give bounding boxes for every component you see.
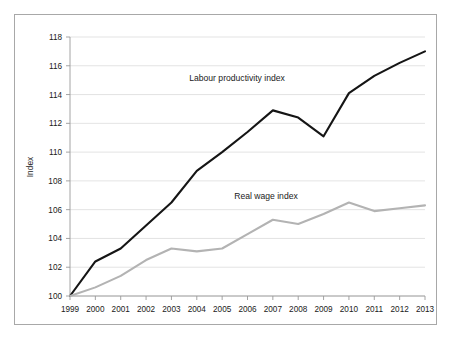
x-tick-label: 1999 [61, 305, 80, 314]
chart-frame: 100102104106108110112114116118 199920002… [14, 14, 437, 325]
y-tick-labels-group: 100102104106108110112114116118 [48, 33, 62, 301]
series-annotation-labour-productivity-index: Labour productivity index [189, 73, 285, 83]
series-line-labour-productivity-index [70, 51, 425, 296]
x-tick-label: 2001 [112, 305, 131, 314]
x-tick-marks-group [70, 296, 425, 300]
series-line-real-wage-index [70, 202, 425, 296]
y-tick-label: 116 [49, 62, 62, 71]
x-tick-label: 2010 [340, 305, 359, 314]
x-tick-label: 2000 [86, 305, 105, 314]
x-tick-label: 2008 [289, 305, 308, 314]
x-tick-label: 2005 [213, 305, 232, 314]
x-tick-label: 2009 [314, 305, 333, 314]
y-tick-label: 118 [49, 33, 62, 42]
y-tick-label: 110 [49, 148, 62, 157]
y-tick-label: 100 [48, 292, 62, 301]
x-tick-label: 2012 [391, 305, 410, 314]
x-tick-label: 2007 [264, 305, 283, 314]
chart-figure: 100102104106108110112114116118 199920002… [0, 0, 449, 340]
x-tick-label: 2003 [162, 305, 181, 314]
line-chart-canvas: 100102104106108110112114116118 199920002… [15, 15, 436, 324]
y-axis-title: Index [25, 156, 35, 177]
y-tick-label: 106 [48, 206, 62, 215]
x-tick-label: 2006 [238, 305, 257, 314]
y-tick-label: 114 [49, 91, 62, 100]
x-tick-label: 2013 [416, 305, 435, 314]
x-tick-label: 2011 [365, 305, 383, 314]
y-tick-label: 112 [49, 119, 62, 128]
series-paths-group [70, 51, 425, 296]
x-tick-label: 2002 [137, 305, 156, 314]
y-tick-label: 108 [48, 177, 62, 186]
x-tick-label: 2004 [188, 305, 207, 314]
x-tick-labels-group: 1999200020012002200320042005200620072008… [61, 305, 435, 314]
y-tick-label: 102 [48, 263, 62, 272]
y-tick-label: 104 [48, 234, 62, 243]
series-annotation-real-wage-index: Real wage index [234, 191, 298, 201]
